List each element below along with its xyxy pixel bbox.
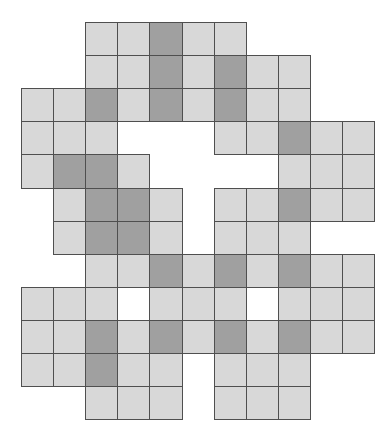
light-grid-cell xyxy=(246,320,279,354)
light-grid-cell xyxy=(182,55,215,89)
light-grid-cell xyxy=(85,55,118,89)
light-grid-cell xyxy=(21,320,54,354)
light-grid-cell xyxy=(278,154,311,189)
light-grid-cell xyxy=(278,287,311,321)
light-grid-cell xyxy=(214,121,247,155)
dark-grid-cell xyxy=(214,88,247,122)
dark-grid-cell xyxy=(85,320,118,354)
dark-grid-cell xyxy=(149,254,183,288)
light-grid-cell xyxy=(117,22,150,56)
light-grid-cell xyxy=(149,353,183,387)
light-grid-cell xyxy=(246,386,279,420)
light-grid-cell xyxy=(246,121,279,155)
light-grid-cell xyxy=(21,353,54,387)
light-grid-cell xyxy=(117,55,150,89)
light-grid-cell xyxy=(21,154,54,189)
light-grid-cell xyxy=(278,386,311,420)
light-grid-cell xyxy=(246,254,279,288)
dark-grid-cell xyxy=(278,320,311,354)
light-grid-cell xyxy=(21,121,54,155)
light-grid-cell xyxy=(214,188,247,222)
dark-grid-cell xyxy=(149,320,183,354)
polyomino-grid-figure xyxy=(0,0,389,439)
light-grid-cell xyxy=(85,386,118,420)
light-grid-cell xyxy=(342,320,375,354)
light-grid-cell xyxy=(246,88,279,122)
light-grid-cell xyxy=(310,254,343,288)
light-grid-cell xyxy=(117,154,150,189)
dark-grid-cell xyxy=(214,320,247,354)
light-grid-cell xyxy=(182,22,215,56)
light-grid-cell xyxy=(278,55,311,89)
dark-grid-cell xyxy=(85,188,118,222)
light-grid-cell xyxy=(182,88,215,122)
empty-grid-cell xyxy=(246,287,279,321)
light-grid-cell xyxy=(246,221,279,255)
light-grid-cell xyxy=(149,221,183,255)
dark-grid-cell xyxy=(53,154,86,189)
light-grid-cell xyxy=(53,88,86,122)
light-grid-cell xyxy=(214,221,247,255)
light-grid-cell xyxy=(117,254,150,288)
light-grid-cell xyxy=(246,353,279,387)
dark-grid-cell xyxy=(117,188,150,222)
light-grid-cell xyxy=(21,88,54,122)
light-grid-cell xyxy=(182,254,215,288)
dark-grid-cell xyxy=(149,22,183,56)
light-grid-cell xyxy=(149,287,183,321)
light-grid-cell xyxy=(214,22,247,56)
light-grid-cell xyxy=(342,287,375,321)
light-grid-cell xyxy=(117,88,150,122)
light-grid-cell xyxy=(310,121,343,155)
light-grid-cell xyxy=(53,287,86,321)
dark-grid-cell xyxy=(278,254,311,288)
light-grid-cell xyxy=(246,55,279,89)
light-grid-cell xyxy=(117,320,150,354)
light-grid-cell xyxy=(53,221,86,255)
light-grid-cell xyxy=(246,188,279,222)
light-grid-cell xyxy=(117,353,150,387)
light-grid-cell xyxy=(278,88,311,122)
light-grid-cell xyxy=(214,386,247,420)
light-grid-cell xyxy=(85,287,118,321)
light-grid-cell xyxy=(214,353,247,387)
dark-grid-cell xyxy=(117,221,150,255)
light-grid-cell xyxy=(182,320,215,354)
light-grid-cell xyxy=(85,22,118,56)
light-grid-cell xyxy=(214,287,247,321)
dark-grid-cell xyxy=(85,154,118,189)
dark-grid-cell xyxy=(214,55,247,89)
light-grid-cell xyxy=(53,353,86,387)
light-grid-cell xyxy=(149,188,183,222)
dark-grid-cell xyxy=(278,121,311,155)
light-grid-cell xyxy=(182,287,215,321)
light-grid-cell xyxy=(117,386,150,420)
dark-grid-cell xyxy=(85,221,118,255)
dark-grid-cell xyxy=(214,254,247,288)
dark-grid-cell xyxy=(85,88,118,122)
light-grid-cell xyxy=(85,121,118,155)
light-grid-cell xyxy=(53,320,86,354)
light-grid-cell xyxy=(21,287,54,321)
light-grid-cell xyxy=(149,386,183,420)
empty-grid-cell xyxy=(117,287,150,321)
light-grid-cell xyxy=(53,121,86,155)
light-grid-cell xyxy=(310,188,343,222)
light-grid-cell xyxy=(278,221,311,255)
light-grid-cell xyxy=(310,320,343,354)
light-grid-cell xyxy=(85,254,118,288)
dark-grid-cell xyxy=(85,353,118,387)
light-grid-cell xyxy=(342,121,375,155)
light-grid-cell xyxy=(53,188,86,222)
light-grid-cell xyxy=(342,254,375,288)
light-grid-cell xyxy=(310,154,343,189)
dark-grid-cell xyxy=(278,188,311,222)
dark-grid-cell xyxy=(149,55,183,89)
light-grid-cell xyxy=(310,287,343,321)
light-grid-cell xyxy=(342,154,375,189)
light-grid-cell xyxy=(342,188,375,222)
dark-grid-cell xyxy=(149,88,183,122)
light-grid-cell xyxy=(278,353,311,387)
